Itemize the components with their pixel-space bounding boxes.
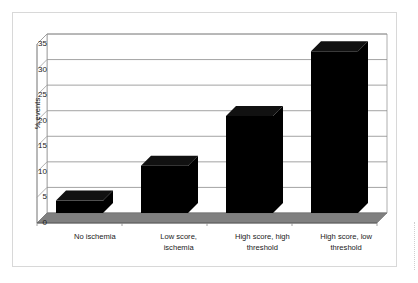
figure-container: 35 30 25 20 15 10 5 0 % events No ischem… — [0, 0, 418, 283]
x-label-line: High score, low — [306, 232, 386, 243]
chart-floor — [37, 213, 387, 223]
x-axis-category-labels: No ischemia Low score, ischemia High sco… — [53, 232, 388, 253]
x-label-line: threshold — [306, 243, 386, 254]
bar-high-score-low-threshold[interactable] — [311, 41, 368, 213]
x-label-no-ischemia: No ischemia — [53, 232, 137, 253]
y-tick-30: 30 — [31, 66, 47, 74]
y-tick-35: 35 — [31, 40, 47, 48]
chart-frame: 35 30 25 20 15 10 5 0 % events No ischem… — [12, 12, 397, 267]
page-margin-rule — [414, 222, 415, 270]
x-label-high-score-low-threshold: High score, low threshold — [304, 232, 388, 253]
y-axis-title: % events — [33, 84, 42, 144]
x-label-low-score-ischemia: Low score, ischemia — [137, 232, 221, 253]
x-label-line: High score, high — [223, 232, 303, 243]
x-label-line: No ischemia — [55, 232, 135, 243]
plot-area — [13, 13, 398, 268]
bar-high-score-high-threshold[interactable] — [226, 106, 283, 213]
x-label-line: ischemia — [139, 243, 219, 254]
x-label-high-score-high-threshold: High score, high threshold — [221, 232, 305, 253]
x-label-line: Low score, — [139, 232, 219, 243]
y-tick-5: 5 — [31, 193, 47, 201]
bar-low-score-ischemia[interactable] — [141, 156, 198, 213]
x-label-line: threshold — [223, 243, 303, 254]
y-tick-0: 0 — [31, 219, 47, 227]
bar-chart-svg — [13, 13, 398, 268]
bar-no-ischemia[interactable] — [56, 191, 113, 213]
y-tick-10: 10 — [31, 168, 47, 176]
